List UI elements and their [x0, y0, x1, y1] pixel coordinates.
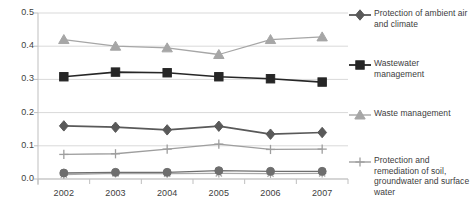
legend-label: Waste management: [371, 108, 451, 119]
legend-triangle-icon: [349, 109, 371, 121]
data-point-diamond-marker: [356, 10, 365, 20]
line-chart: 0.00.10.20.30.40.5 200220032004200520062…: [0, 0, 473, 214]
legend-diamond-icon: [349, 9, 371, 21]
data-point-plus-marker: [355, 157, 364, 166]
legend-plus-icon: [349, 156, 371, 168]
x-axis-tick-label: 2006: [251, 188, 291, 198]
legend-entry[interactable]: Protection and remediation of soil, grou…: [349, 155, 473, 197]
legend-label: Protection of ambient air and climate: [371, 8, 470, 29]
chart-legend: Protection of ambient air and climateWas…: [349, 0, 473, 214]
x-axis-tick-label: 2007: [302, 188, 342, 198]
legend-square-icon: [349, 59, 371, 71]
x-axis: 200220032004200520062007: [0, 0, 360, 214]
x-axis-tick-label: 2005: [199, 188, 239, 198]
legend-entry[interactable]: Waste management: [349, 108, 473, 121]
x-axis-tick-label: 2002: [44, 188, 84, 198]
plot-area: 0.00.10.20.30.40.5 200220032004200520062…: [0, 0, 360, 214]
legend-label: Protection and remediation of soil, grou…: [371, 155, 470, 197]
legend-entry[interactable]: Protection of ambient air and climate: [349, 8, 473, 29]
data-point-square-marker: [356, 61, 364, 69]
x-axis-tick-label: 2003: [96, 188, 136, 198]
legend-entry[interactable]: Wastewater management: [349, 58, 473, 79]
legend-label: Wastewater management: [371, 58, 470, 79]
x-axis-tick-label: 2004: [147, 188, 187, 198]
